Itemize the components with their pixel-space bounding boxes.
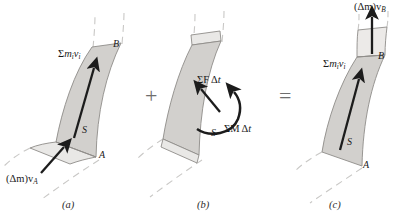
t-symbol-b: t xyxy=(218,74,221,85)
streamline-upper-right-b xyxy=(222,11,224,42)
panel-c xyxy=(294,11,388,203)
equals-operator: = xyxy=(279,85,291,107)
m-symbol-a: m xyxy=(64,48,72,59)
panel-a xyxy=(2,11,124,199)
momentum-label-c: Σmivi xyxy=(323,59,345,70)
streamline-upper-left-c xyxy=(358,14,359,30)
v-subscript-a: i xyxy=(78,52,80,61)
inflow-subscript-a: A xyxy=(33,177,37,186)
moment-impulse-label-b: ΣMΔt xyxy=(224,124,251,135)
streamline-lower-left-a xyxy=(2,148,30,168)
control-volume-c xyxy=(322,55,385,166)
section-label-a-c: A xyxy=(363,160,369,170)
m-symbol-b: M xyxy=(230,123,239,134)
section-label-s-a: S xyxy=(82,125,87,135)
section-label-s-c: S xyxy=(347,137,352,147)
control-volume-a xyxy=(56,43,121,157)
streamline-upper-left-a xyxy=(93,14,95,48)
impulse-momentum-figure xyxy=(0,0,403,222)
v-subscript-c: i xyxy=(343,62,345,71)
panel-caption-a: (a) xyxy=(62,200,74,211)
section-label-b-c: B xyxy=(378,51,384,61)
inflow-expr-a: (Δm)v xyxy=(6,173,33,184)
streamline-upper-right-a xyxy=(122,11,124,44)
outflow-subscript-c: B xyxy=(381,5,385,14)
inflow-label-a: (Δm)vA xyxy=(6,174,38,185)
streamline-lower-right-b xyxy=(150,160,202,197)
streamline-lower-left-b xyxy=(136,139,163,160)
f-symbol-b: F xyxy=(203,74,209,85)
outflow-label-c: (Δm)vB xyxy=(354,2,386,13)
streamline-lower-left-c xyxy=(294,152,322,172)
panel-caption-c: (c) xyxy=(329,200,341,211)
outflow-expr-c: (Δm)v xyxy=(354,1,381,12)
t-symbol-m-b: t xyxy=(248,123,251,134)
streamline-upper-right-c xyxy=(387,11,388,27)
streamline-lower-right-a xyxy=(42,160,99,199)
momentum-label-a: Σmivi xyxy=(58,49,80,60)
panel-caption-b: (b) xyxy=(197,200,209,211)
section-label-b-a: B xyxy=(113,39,119,49)
m-symbol-c: m xyxy=(329,58,337,69)
streamline-lower-right-c xyxy=(310,168,362,203)
section-label-a-a: A xyxy=(99,150,105,160)
force-impulse-label-b: ΣFΔt xyxy=(197,75,221,86)
delta-symbol-b: Δ xyxy=(211,74,218,85)
section-label-s-b: S xyxy=(211,128,216,138)
plus-operator: + xyxy=(145,85,157,107)
